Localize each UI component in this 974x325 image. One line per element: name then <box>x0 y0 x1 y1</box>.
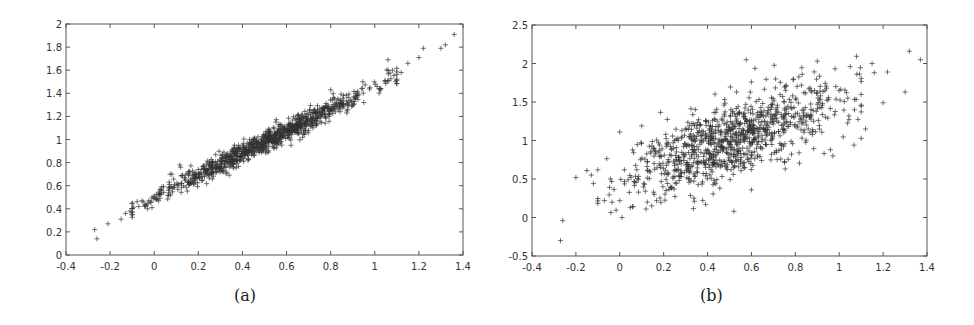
x-tick-label: 0.4 <box>234 261 250 272</box>
y-tick-label: 1.8 <box>46 42 62 53</box>
y-tick-label: 0.5 <box>512 174 528 185</box>
y-tick-label: 1 <box>522 136 528 147</box>
plot-canvas-b: -0.4-0.200.20.40.60.811.21.4-0.500.511.5… <box>487 0 974 325</box>
y-tick-label: 0.4 <box>46 204 62 215</box>
x-tick-label: 0 <box>151 261 157 272</box>
x-tick-label: 0.8 <box>787 262 803 273</box>
x-tick-label: 0.6 <box>279 261 295 272</box>
y-tick-label: -0.5 <box>508 251 528 262</box>
scatter-plot-b: -0.4-0.200.20.40.60.811.21.4-0.500.511.5… <box>487 0 974 325</box>
data-points-a <box>92 32 457 242</box>
x-tick-label: 1.4 <box>455 261 471 272</box>
x-tick-label: -0.2 <box>100 261 120 272</box>
y-tick-label: 1.2 <box>46 111 62 122</box>
y-tick-label: 2.5 <box>512 20 528 31</box>
x-tick-label: 1 <box>836 262 842 273</box>
y-tick-label: 0.8 <box>46 158 62 169</box>
caption-b: (b) <box>700 286 723 305</box>
caption-a: (a) <box>234 286 256 305</box>
y-tick-label: 1.6 <box>46 65 62 76</box>
x-tick-label: 0.2 <box>656 262 672 273</box>
y-tick-label: 0 <box>522 213 528 224</box>
y-tick-label: 0.6 <box>46 181 62 192</box>
y-tick-label: 0 <box>56 250 62 261</box>
scatter-plot-a: -0.4-0.200.20.40.60.811.21.400.20.40.60.… <box>0 0 487 325</box>
x-tick-label: -0.4 <box>522 262 542 273</box>
x-tick-label: 0.6 <box>743 262 759 273</box>
x-tick-label: 0.8 <box>323 261 339 272</box>
x-tick-label: 1.2 <box>875 262 891 273</box>
y-tick-label: 1.5 <box>512 97 528 108</box>
x-tick-label: 1.2 <box>411 261 427 272</box>
y-tick-label: 2 <box>522 59 528 70</box>
x-tick-label: 0 <box>617 262 623 273</box>
y-tick-label: 2 <box>56 19 62 30</box>
x-tick-label: 1 <box>372 261 378 272</box>
y-tick-label: 1 <box>56 135 62 146</box>
x-tick-label: 1.4 <box>919 262 935 273</box>
x-tick-label: 0.2 <box>190 261 206 272</box>
y-tick-label: 0.2 <box>46 227 62 238</box>
x-tick-label: -0.4 <box>56 261 76 272</box>
y-tick-label: 1.4 <box>46 88 62 99</box>
plot-canvas-a: -0.4-0.200.20.40.60.811.21.400.20.40.60.… <box>0 0 487 325</box>
x-tick-label: -0.2 <box>566 262 586 273</box>
x-tick-label: 0.4 <box>700 262 716 273</box>
data-points-b <box>558 49 923 244</box>
